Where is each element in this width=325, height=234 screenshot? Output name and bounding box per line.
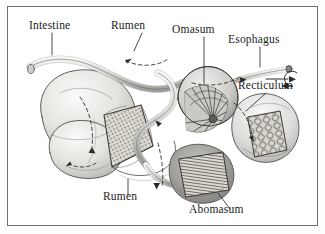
label-abomasum: Abomasum (189, 204, 244, 216)
label-recticulum: Recticulum (238, 80, 293, 92)
label-rumen-top: Rumen (111, 20, 145, 32)
figure-container: Intestine Rumen Omasum Esophagus Recticu… (0, 0, 325, 234)
label-esophagus: Esophagus (228, 34, 280, 46)
label-rumen-bottom: Rumen (103, 191, 137, 203)
label-omasum: Omasum (172, 24, 215, 36)
label-intestine: Intestine (29, 20, 70, 32)
